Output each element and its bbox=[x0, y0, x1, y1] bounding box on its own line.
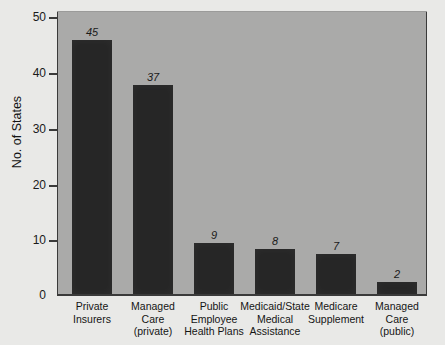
bar-private-insurers[interactable] bbox=[72, 40, 112, 294]
x-axis-line bbox=[57, 294, 427, 296]
x-category-line: Assistance bbox=[236, 325, 314, 338]
value-label-managed-care-private: 37 bbox=[133, 71, 173, 83]
y-tick-label-10: 10 bbox=[6, 234, 46, 246]
y-tick-mark-40 bbox=[49, 73, 57, 75]
y-tick-label-40: 40 bbox=[6, 67, 46, 79]
y-tick-mark-20 bbox=[49, 185, 57, 187]
x-category-line: (public) bbox=[361, 325, 433, 338]
plot-area bbox=[58, 12, 427, 294]
value-label-medicaid-state-medical-assistance: 8 bbox=[255, 235, 295, 247]
y-tick-label-20: 20 bbox=[6, 179, 46, 191]
value-label-medicare-supplement: 7 bbox=[316, 240, 356, 252]
x-category-line: Care bbox=[361, 313, 433, 326]
value-label-public-employee-health-plans: 9 bbox=[194, 229, 234, 241]
bar-medicare-supplement[interactable] bbox=[316, 254, 356, 294]
y-tick-label-0: 0 bbox=[6, 289, 46, 301]
bar-managed-care-public[interactable] bbox=[377, 282, 417, 294]
y-tick-mark-10 bbox=[49, 240, 57, 242]
y-tick-label-30: 30 bbox=[6, 123, 46, 135]
y-tick-label-50: 50 bbox=[6, 11, 46, 23]
x-category-label-managed-care-public: Managed Care (public) bbox=[361, 300, 433, 338]
y-tick-mark-50 bbox=[49, 17, 57, 19]
bar-chart-figure: No. of States 50 40 30 20 10 0 45 37 9 8… bbox=[0, 0, 445, 364]
x-category-line: Managed bbox=[361, 300, 433, 313]
value-label-private-insurers: 45 bbox=[72, 26, 112, 38]
bar-public-employee-health-plans[interactable] bbox=[194, 243, 234, 294]
y-tick-mark-30 bbox=[49, 129, 57, 131]
value-label-managed-care-public: 2 bbox=[377, 268, 417, 280]
bar-medicaid-state-medical-assistance[interactable] bbox=[255, 249, 295, 294]
bar-managed-care-private[interactable] bbox=[133, 85, 173, 294]
